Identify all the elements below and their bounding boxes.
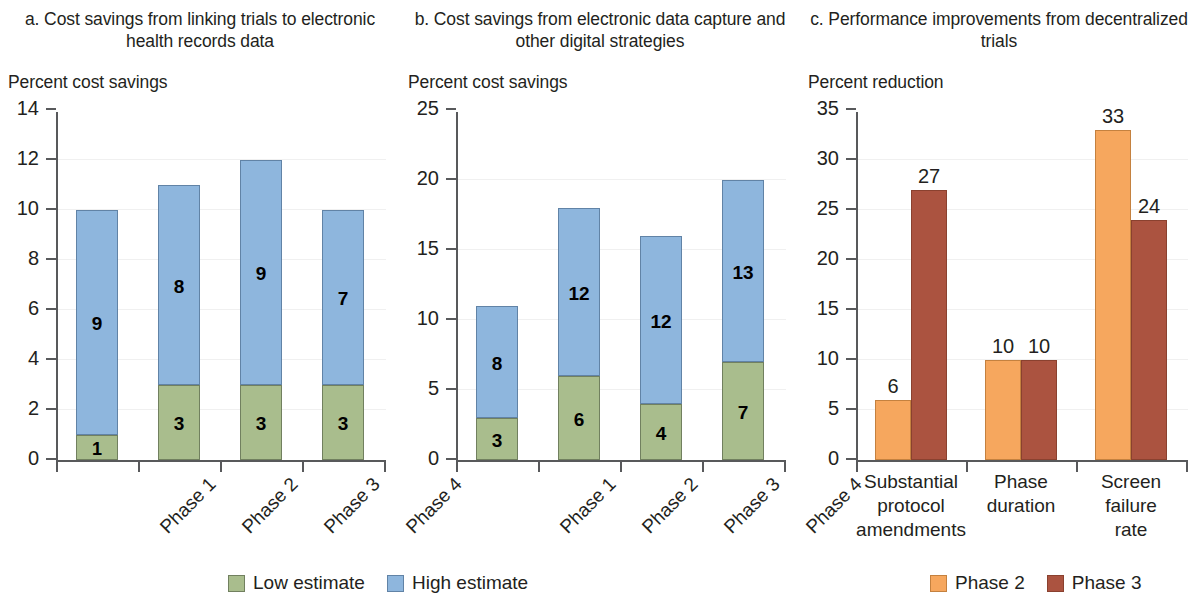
- x-tick: [784, 462, 786, 472]
- bar-value-label: 12: [568, 284, 589, 303]
- bar-segment-low[interactable]: 4: [640, 404, 682, 460]
- x-axis-label-line: amendments: [856, 518, 966, 542]
- y-tick: 10: [446, 318, 456, 320]
- bar-phase-3[interactable]: 24: [1131, 220, 1167, 460]
- bar-value-label: 27: [918, 166, 940, 186]
- y-tick: 0: [446, 458, 456, 460]
- bar-group[interactable]: 6 27: [856, 190, 966, 460]
- bar-phase-3[interactable]: 27: [911, 190, 947, 460]
- y-tick: 10: [846, 358, 856, 360]
- bar-value-label: 10: [992, 336, 1014, 356]
- stacked-bar[interactable]: 1 9: [76, 210, 118, 460]
- bar-segment-high[interactable]: 8: [476, 306, 518, 418]
- bar-segment-low[interactable]: 7: [722, 362, 764, 460]
- legend-item-low-estimate[interactable]: Low estimate: [228, 572, 365, 594]
- x-axis-label-line: protocol: [856, 494, 966, 518]
- bar-group[interactable]: 6 12: [538, 208, 620, 460]
- x-axis-label-phase-3: Phase 3: [720, 474, 783, 537]
- bar-group[interactable]: 3 7: [302, 210, 384, 460]
- y-tick-label: 20: [417, 168, 439, 188]
- bar-segment-low[interactable]: 3: [240, 385, 282, 460]
- bar-value-label: 13: [732, 263, 753, 282]
- stacked-bar[interactable]: 3 8: [476, 306, 518, 460]
- legend-item-phase-2[interactable]: Phase 2: [930, 572, 1025, 594]
- panel-c-title: c. Performance improvements from decentr…: [810, 8, 1188, 53]
- bar-segment-high[interactable]: 7: [322, 210, 364, 385]
- bar-group[interactable]: 7 13: [702, 180, 784, 460]
- bar-group[interactable]: 10 10: [966, 360, 1076, 460]
- bar-value-label: 3: [492, 431, 503, 450]
- bar-value-label: 8: [174, 277, 185, 296]
- x-tick: [302, 462, 304, 472]
- bar-value-label: 4: [656, 424, 667, 443]
- bar-group[interactable]: 33 24: [1076, 130, 1186, 460]
- x-tick: [220, 462, 222, 472]
- legend-panels-a-b: Low estimate High estimate: [228, 572, 528, 594]
- y-tick-label: 10: [817, 348, 839, 368]
- y-tick: 0: [46, 458, 56, 460]
- y-tick-label: 0: [28, 448, 39, 468]
- stacked-bar[interactable]: 6 12: [558, 208, 600, 460]
- stacked-bar[interactable]: 3 7: [322, 210, 364, 460]
- y-tick: 20: [846, 258, 856, 260]
- legend-label: Low estimate: [253, 572, 365, 594]
- legend-item-high-estimate[interactable]: High estimate: [387, 572, 528, 594]
- stacked-bar[interactable]: 4 12: [640, 236, 682, 460]
- bar-value-label: 7: [738, 403, 749, 422]
- bar-value-label: 6: [887, 376, 898, 396]
- bar-segment-high[interactable]: 12: [640, 236, 682, 404]
- bar-group[interactable]: 3 9: [220, 160, 302, 460]
- panel-c-x-axis: [856, 460, 1188, 462]
- panel-c: c. Performance improvements from decentr…: [800, 0, 1198, 602]
- x-axis-label-substantial-protocol-amendments: Substantial protocol amendments: [856, 470, 966, 541]
- legend-item-phase-3[interactable]: Phase 3: [1047, 572, 1142, 594]
- stacked-bar[interactable]: 3 8: [158, 185, 200, 460]
- y-tick: 2: [46, 408, 56, 410]
- y-tick-label: 12: [17, 148, 39, 168]
- bar-group[interactable]: 3 8: [138, 185, 220, 460]
- y-tick-label: 25: [817, 198, 839, 218]
- y-tick-label: 20: [817, 248, 839, 268]
- bar-segment-low[interactable]: 3: [322, 385, 364, 460]
- bar-phase-2[interactable]: 33: [1095, 130, 1131, 460]
- y-tick: 15: [446, 248, 456, 250]
- y-tick: 25: [446, 108, 456, 110]
- panel-a-axis-title: Percent cost savings: [8, 72, 167, 93]
- bar-segment-high[interactable]: 9: [76, 210, 118, 435]
- bar-segment-low[interactable]: 3: [476, 418, 518, 460]
- bar-segment-low[interactable]: 1: [76, 435, 118, 460]
- x-axis-label-line: Phase: [966, 470, 1076, 494]
- bar-segment-high[interactable]: 9: [240, 160, 282, 385]
- y-tick: 6: [46, 308, 56, 310]
- bar-group[interactable]: 1 9: [56, 210, 138, 460]
- y-tick-label: 14: [17, 98, 39, 118]
- stacked-bar[interactable]: 7 13: [722, 180, 764, 460]
- stacked-bar[interactable]: 3 9: [240, 160, 282, 460]
- y-tick: 10: [46, 208, 56, 210]
- panel-b-plot-area: 0 5 10 15 20 25 3 8 6 12: [456, 112, 786, 462]
- bar-segment-high[interactable]: 13: [722, 180, 764, 362]
- legend-panel-c: Phase 2 Phase 3: [930, 572, 1141, 594]
- x-tick: [56, 462, 58, 472]
- bar-group[interactable]: 3 8: [456, 306, 538, 460]
- y-tick-label: 15: [417, 238, 439, 258]
- bar-segment-low[interactable]: 6: [558, 376, 600, 460]
- bar-phase-2[interactable]: 6: [875, 400, 911, 460]
- bar-segment-high[interactable]: 12: [558, 208, 600, 376]
- panel-b-title: b. Cost savings from electronic data cap…: [410, 8, 790, 53]
- legend-swatch-phase-3-icon: [1047, 575, 1064, 592]
- y-tick-label: 15: [817, 298, 839, 318]
- y-tick-label: 10: [17, 198, 39, 218]
- panel-a-plot-area: 0 2 4 6 8 10 12 14 1 9 3 8: [56, 112, 386, 462]
- x-tick: [702, 462, 704, 472]
- bar-segment-low[interactable]: 3: [158, 385, 200, 460]
- x-axis-label-phase-2: Phase 2: [638, 474, 701, 537]
- bar-phase-3[interactable]: 10: [1021, 360, 1057, 460]
- x-axis-label-line: failure: [1076, 494, 1186, 518]
- bar-segment-high[interactable]: 8: [158, 185, 200, 385]
- bar-phase-2[interactable]: 10: [985, 360, 1021, 460]
- bar-group[interactable]: 4 12: [620, 236, 702, 460]
- bar-value-label: 9: [92, 314, 103, 333]
- x-axis-label-line: duration: [966, 494, 1076, 518]
- legend-label: Phase 2: [955, 572, 1025, 594]
